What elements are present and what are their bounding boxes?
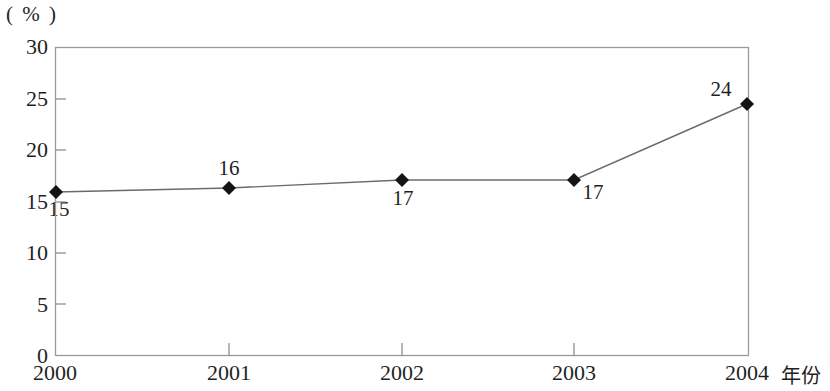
line-chart: ( % ) 年份 30 25 20 15 10 5 0 2000 2001 20… <box>0 0 830 391</box>
data-point-2003 <box>567 173 581 187</box>
y-axis-ticks <box>56 99 67 304</box>
x-axis-ticks <box>229 343 574 356</box>
data-point-2002 <box>395 173 409 187</box>
data-point-2001 <box>222 181 236 195</box>
data-point-2004 <box>740 97 754 111</box>
plot-frame <box>56 48 749 356</box>
plot-area <box>0 0 830 391</box>
data-point-2000 <box>49 185 63 199</box>
